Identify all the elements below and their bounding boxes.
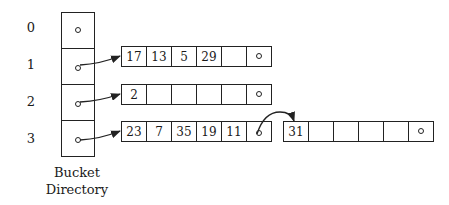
arrow-dir3-to-bucket3 <box>80 131 120 140</box>
arrow-bucket3-to-overflow <box>257 112 294 134</box>
arrow-dir2-to-bucket2 <box>80 94 120 102</box>
arrow-dir1-to-bucket1 <box>80 56 120 65</box>
pointer-arrows <box>0 0 449 205</box>
